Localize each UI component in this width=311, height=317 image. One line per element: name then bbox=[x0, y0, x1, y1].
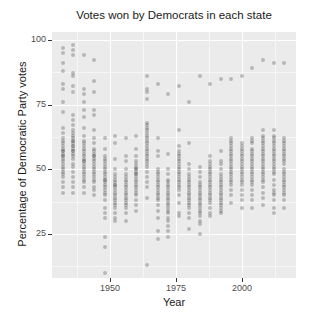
data-point bbox=[82, 53, 86, 57]
data-point bbox=[240, 188, 244, 192]
gridline-major bbox=[52, 40, 296, 41]
data-point bbox=[156, 149, 160, 153]
data-point bbox=[71, 48, 75, 52]
gridline-major bbox=[52, 169, 296, 170]
data-point bbox=[282, 61, 286, 65]
data-point bbox=[61, 175, 65, 179]
data-point bbox=[282, 206, 286, 210]
data-point bbox=[145, 185, 149, 189]
data-point bbox=[124, 136, 128, 140]
data-point bbox=[71, 191, 75, 195]
data-point bbox=[272, 211, 276, 215]
data-point bbox=[187, 162, 191, 166]
gridline-minor bbox=[143, 32, 144, 278]
data-point bbox=[198, 74, 202, 78]
data-point bbox=[187, 211, 191, 215]
data-point bbox=[261, 128, 265, 132]
data-point bbox=[198, 165, 202, 169]
data-point bbox=[134, 147, 138, 151]
data-point bbox=[113, 141, 117, 145]
data-point bbox=[124, 154, 128, 158]
data-point bbox=[103, 271, 107, 275]
data-point bbox=[71, 180, 75, 184]
data-point bbox=[187, 206, 191, 210]
data-point bbox=[71, 113, 75, 117]
data-point bbox=[250, 188, 254, 192]
data-point bbox=[145, 165, 149, 169]
gridline-minor bbox=[52, 72, 296, 73]
data-point bbox=[61, 87, 65, 91]
data-point bbox=[261, 196, 265, 200]
x-tick-mark bbox=[242, 278, 243, 282]
data-point bbox=[166, 211, 170, 215]
data-point bbox=[219, 211, 223, 215]
gridline-minor bbox=[52, 137, 296, 138]
data-point bbox=[156, 203, 160, 207]
data-point bbox=[61, 185, 65, 189]
data-point bbox=[145, 74, 149, 78]
data-point bbox=[103, 211, 107, 215]
data-point bbox=[208, 214, 212, 218]
data-point bbox=[71, 118, 75, 122]
data-point bbox=[113, 206, 117, 210]
data-point bbox=[113, 219, 117, 223]
data-point bbox=[134, 154, 138, 158]
data-point bbox=[282, 193, 286, 197]
data-point bbox=[145, 263, 149, 267]
data-point bbox=[208, 201, 212, 205]
data-point bbox=[71, 170, 75, 174]
data-point bbox=[177, 144, 181, 148]
data-point bbox=[103, 216, 107, 220]
data-point bbox=[92, 193, 96, 197]
data-point bbox=[61, 61, 65, 65]
y-axis-title: Percentage of Democratic Party votes bbox=[16, 54, 28, 254]
data-point bbox=[124, 206, 128, 210]
data-point bbox=[82, 100, 86, 104]
x-tick-label: 2000 bbox=[222, 283, 262, 293]
data-point bbox=[124, 159, 128, 163]
data-point bbox=[198, 214, 202, 218]
data-point bbox=[71, 43, 75, 47]
y-tick-label: 100 bbox=[31, 34, 46, 44]
data-point bbox=[177, 188, 181, 192]
data-point bbox=[187, 216, 191, 220]
x-tick-label: 1950 bbox=[90, 283, 130, 293]
data-point bbox=[71, 185, 75, 189]
x-tick-label: 1975 bbox=[156, 283, 196, 293]
data-point bbox=[124, 211, 128, 215]
data-point bbox=[145, 175, 149, 179]
data-point bbox=[82, 115, 86, 119]
y-tick-mark bbox=[48, 40, 52, 41]
data-point bbox=[61, 110, 65, 114]
x-tick-mark bbox=[176, 278, 177, 282]
plot-panel bbox=[52, 32, 296, 278]
data-point bbox=[229, 77, 233, 81]
data-point bbox=[156, 136, 160, 140]
data-point bbox=[92, 58, 96, 62]
data-point bbox=[61, 69, 65, 73]
data-point bbox=[166, 152, 170, 156]
data-point bbox=[250, 183, 254, 187]
data-point bbox=[177, 128, 181, 132]
data-point bbox=[71, 74, 75, 78]
y-tick-mark bbox=[48, 234, 52, 235]
data-point bbox=[166, 224, 170, 228]
data-point bbox=[240, 206, 244, 210]
data-point bbox=[71, 53, 75, 57]
gridline-minor bbox=[77, 32, 78, 278]
data-point bbox=[103, 136, 107, 140]
data-point bbox=[272, 193, 276, 197]
data-point bbox=[156, 237, 160, 241]
data-point bbox=[61, 180, 65, 184]
data-point bbox=[92, 113, 96, 117]
data-point bbox=[272, 178, 276, 182]
data-point bbox=[219, 162, 223, 166]
data-point bbox=[208, 154, 212, 158]
data-point bbox=[198, 232, 202, 236]
data-point bbox=[134, 193, 138, 197]
data-point bbox=[187, 141, 191, 145]
data-point bbox=[156, 209, 160, 213]
data-point bbox=[166, 235, 170, 239]
gridline-major bbox=[110, 32, 111, 278]
y-tick-mark bbox=[48, 105, 52, 106]
